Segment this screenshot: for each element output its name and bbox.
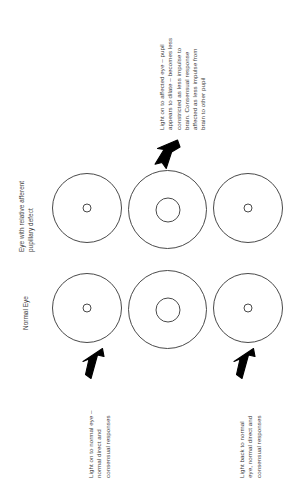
caption-line: brain to other pupil [199,38,207,130]
caption-line: Light on to normal eye – [87,410,95,478]
eye-rapd-step-1 [52,173,122,243]
pupil-large [155,297,180,322]
caption-line: Light back to normal [238,415,246,478]
caption-normal-eye-first: Light on to normal eye – normal direct a… [87,410,112,478]
pupil-small [83,304,92,313]
caption-line: eye, normal direct and [246,415,254,478]
caption-affected-eye: Light on to affected eye – pupil appears… [158,38,208,130]
pupil-large [155,197,180,222]
pupil-small [244,304,253,313]
pupil-small [83,204,92,213]
arrow-to-affected-eye-icon [152,138,182,174]
row-label-line: Normal Eye [22,296,31,330]
eye-rapd-step-2 [128,170,207,249]
pupil-small [244,204,253,213]
eye-normal-step-2 [128,270,207,349]
eye-rapd-step-3 [213,173,283,243]
row-label-normal-eye: Normal Eye [22,296,31,330]
row-label-rapd: Eye with relative afferent pupillary def… [18,181,35,252]
eye-normal-step-3 [213,273,283,343]
arrow-to-normal-eye-back-icon [231,347,259,381]
arrow-to-normal-eye-first-icon [80,347,108,381]
caption-line: constricted as less impulse to [175,38,183,130]
eye-normal-step-1 [52,273,122,343]
caption-line: brain. Consensual response [183,38,191,130]
caption-line: Light on to affected eye – pupil [158,38,166,130]
caption-line: consensual responses [104,410,112,478]
caption-normal-eye-back: Light back to normal eye, normal direct … [238,415,263,478]
pupillary-reflex-diagram: Light on to affected eye – pupil appears… [0,0,305,486]
row-label-line: Eye with relative afferent [18,181,27,252]
caption-line: consensual responses [255,415,263,478]
caption-line: affected as less impulse from [191,38,199,130]
row-label-line: pupillary defect [27,181,36,252]
caption-line: normal direct and [95,410,103,478]
caption-line: appears to dilate – becomes less [166,38,174,130]
